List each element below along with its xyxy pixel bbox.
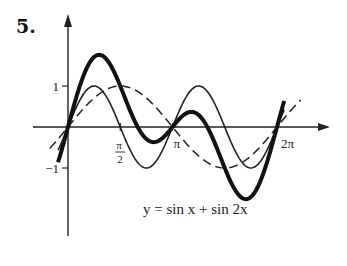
y-axis-arrow-icon <box>64 14 72 27</box>
equation-label: y = sin x + sin 2x <box>143 201 248 217</box>
x-axis-arrow-icon <box>318 123 330 131</box>
y-tick-label: 1 <box>53 79 60 94</box>
x-tick-label: π <box>174 136 181 151</box>
x-tick-label-denominator: 2 <box>117 153 123 165</box>
x-tick-label: 2π <box>281 136 295 151</box>
x-tick-label-numerator: π <box>116 139 122 151</box>
y-tick-label: −1 <box>45 161 59 176</box>
chart: π2π2π1−1 y = sin x + sin 2x <box>0 0 347 266</box>
